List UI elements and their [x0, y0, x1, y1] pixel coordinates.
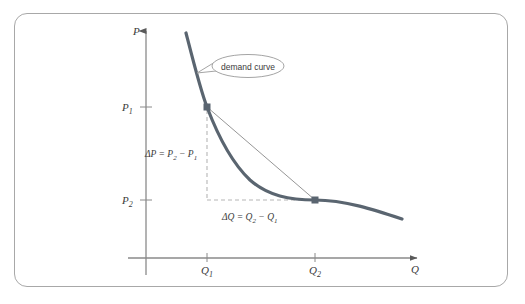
delta-p-annotation: ΔP = P2 − P1: [144, 149, 197, 162]
tick-label-q1: Q1: [201, 264, 213, 279]
delta-q-annotation: ΔQ = Q2 − Q1: [221, 212, 278, 225]
point-1-marker: [204, 104, 211, 111]
y-axis-label: P: [132, 25, 140, 37]
demand-curve-diagram: P Q P1 P2 Q1 Q2 ΔP = P2 − P1 ΔQ = Q2 − Q…: [0, 0, 525, 304]
figure-root: P Q P1 P2 Q1 Q2 ΔP = P2 − P1 ΔQ = Q2 − Q…: [0, 0, 525, 304]
secant-line: [207, 107, 315, 200]
callout-label: demand curve: [221, 62, 275, 72]
point-2-marker: [312, 197, 319, 204]
x-axis-label: Q: [411, 263, 419, 275]
tick-label-p1: P1: [121, 101, 133, 116]
tick-label-q2: Q2: [309, 264, 321, 279]
tick-label-p2: P2: [121, 194, 133, 209]
